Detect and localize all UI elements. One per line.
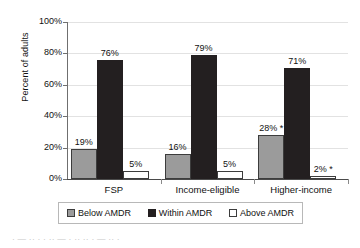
- legend-swatch-icon: [148, 209, 156, 217]
- plot-area: 19%76%5%16%79%5%28% *71%2% *: [67, 22, 348, 179]
- x-axis-category-label-fsp: FSP: [67, 184, 161, 195]
- bar-value-label: 79%: [182, 43, 226, 53]
- legend-item-above: Above AMDR: [229, 208, 294, 218]
- legend-item-label: Above AMDR: [240, 208, 294, 218]
- bar-value-label: 5%: [114, 159, 158, 169]
- bar-value-label: 76%: [88, 48, 132, 58]
- bar-income-eligible-below: [165, 154, 191, 179]
- y-axis-tick-mark: [63, 179, 67, 180]
- y-axis-tick-mark: [63, 116, 67, 117]
- bar-chart-figure: Percent of adults 100%80%60%40%20%0% 19%…: [0, 0, 360, 248]
- y-axis-tick-mark: [63, 22, 67, 23]
- bar-value-label: 5%: [208, 159, 252, 169]
- bar-income-eligible-above: [217, 171, 243, 179]
- y-axis-tick-mark: [63, 53, 67, 54]
- y-axis-tick-label: 20%: [28, 143, 62, 152]
- legend-swatch-icon: [229, 209, 237, 217]
- caption-cutoff-strip: · — ·· · · ·· — · ·· ·· · — ·· ·: [0, 238, 360, 248]
- y-axis-line: [67, 22, 68, 180]
- y-axis-tick-label: 40%: [28, 111, 62, 120]
- y-axis-tick-mark: [63, 148, 67, 149]
- y-axis-tick-label: 100%: [28, 17, 62, 26]
- chart-legend: Below AMDRWithin AMDRAbove AMDR: [58, 202, 303, 224]
- bar-value-label: 71%: [275, 56, 319, 66]
- bar-higher-income-within: [284, 68, 310, 179]
- legend-item-below: Below AMDR: [67, 208, 131, 218]
- y-axis-tick-mark: [63, 85, 67, 86]
- gridline: [68, 22, 348, 23]
- y-axis-tick-label: 60%: [28, 80, 62, 89]
- bar-fsp-above: [123, 171, 149, 179]
- legend-item-label: Within AMDR: [159, 208, 213, 218]
- legend-swatch-icon: [67, 209, 75, 217]
- legend-item-label: Below AMDR: [78, 208, 131, 218]
- y-axis-tick-label: 0%: [28, 174, 62, 183]
- category-separator: [348, 179, 349, 184]
- x-axis-category-label-income-eligible: Income-eligible: [161, 184, 255, 195]
- caption-cutoff-text: · — ·· · · ·· — · ·· ·· · — ·· ·: [12, 238, 120, 244]
- bar-higher-income-below: [258, 135, 284, 179]
- x-axis-line: [67, 179, 348, 180]
- x-axis-category-label-higher-income: Higher-income: [254, 184, 348, 195]
- y-axis-tick-label: 80%: [28, 48, 62, 57]
- y-axis-tick-labels: 100%80%60%40%20%0%: [22, 22, 62, 180]
- legend-item-within: Within AMDR: [148, 208, 213, 218]
- bar-higher-income-above: [310, 176, 336, 179]
- bar-fsp-below: [71, 149, 97, 179]
- bar-value-label: 2% *: [301, 164, 345, 174]
